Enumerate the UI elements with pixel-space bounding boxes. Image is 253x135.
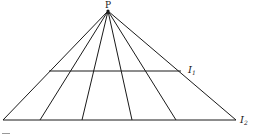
rays-from-apex [3,11,236,120]
ray-1 [3,11,108,120]
apex-label: P [105,0,111,10]
line-I2-label-subscript: 2 [243,119,248,126]
ray-4 [108,11,132,120]
ray-2 [40,11,108,120]
pencil-of-lines-diagram: P I1 I2 [0,0,253,135]
caption-fragment [2,133,10,134]
ray-3 [82,11,108,120]
line-I1-label-subscript: 1 [192,69,196,76]
ray-6 [108,11,236,120]
ray-5 [108,11,176,120]
line-I2-label: I2 [239,114,248,126]
line-I1-label: I1 [187,64,196,76]
